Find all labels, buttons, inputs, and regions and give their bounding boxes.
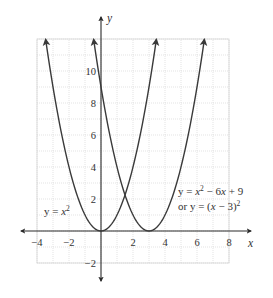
y-tick-label: 2	[91, 194, 96, 205]
y-tick-label: 4	[91, 162, 97, 173]
tick-labels: −4−22468−2246810	[31, 66, 231, 269]
curve-label-x-squared: y = x2	[44, 204, 70, 218]
x-tick-label: 6	[194, 237, 199, 248]
y-tick-label: 10	[86, 66, 97, 77]
curve-label-shifted-line2: or y = (x − 3)2	[178, 199, 241, 214]
curve-label-shifted-line1: y = x2 − 6x + 9	[178, 184, 244, 198]
x-axis-label: x	[247, 237, 254, 249]
x-tick-label: −2	[63, 237, 74, 248]
equation-labels: y = x2 y = x2 − 6x + 9 or y = (x − 3)2	[44, 184, 244, 218]
x-tick-label: 8	[226, 237, 231, 248]
y-tick-label: 8	[91, 98, 96, 109]
x-tick-label: −4	[31, 237, 43, 248]
y-axis-label: y	[106, 12, 113, 25]
y-tick-label: 6	[91, 130, 96, 141]
y-tick-label: −2	[85, 258, 96, 269]
x-tick-label: 4	[162, 237, 168, 248]
x-tick-label: 2	[130, 237, 135, 248]
parabola-chart: x y −4−22468−2246810 y = x2 y = x2 − 6x …	[0, 0, 273, 298]
